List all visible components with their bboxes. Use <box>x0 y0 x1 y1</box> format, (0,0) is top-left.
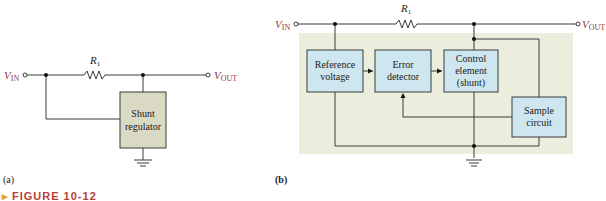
sample-circuit-line2: circuit <box>526 117 552 128</box>
sample-circuit-line1: Sample <box>524 105 555 116</box>
panel-b-label: (b) <box>275 174 287 186</box>
panel-a <box>25 71 208 166</box>
reference-voltage-line1: Reference <box>315 59 356 70</box>
junction-dot <box>472 144 476 148</box>
svg-text:VOUT: VOUT <box>582 18 605 32</box>
junction-dot <box>333 22 337 26</box>
reference-voltage-line2: voltage <box>320 71 350 82</box>
junction-dot <box>44 73 48 77</box>
vin-subscript-a: IN <box>11 74 20 83</box>
error-detector-line2: detector <box>387 71 420 82</box>
vout-subscript-b: OUT <box>589 23 606 32</box>
schematic-canvas: VIN VOUT R1 Shunt regulator (a) VIN VOUT… <box>0 0 606 201</box>
resistor-r1-b <box>396 20 417 28</box>
r1-subscript-b: 1 <box>408 8 412 16</box>
shunt-regulator-block <box>120 92 166 148</box>
resistor-r1-a <box>84 71 105 79</box>
vout-terminal-b <box>576 22 580 26</box>
shunt-regulator-line2: regulator <box>125 121 162 132</box>
svg-text:VOUT: VOUT <box>214 69 237 83</box>
vin-terminal-b <box>294 22 298 26</box>
vin-subscript-b: IN <box>282 23 291 32</box>
svg-text:R1: R1 <box>400 2 412 16</box>
error-detector-line1: Error <box>392 59 414 70</box>
vout-terminal-a <box>206 73 210 77</box>
control-element-line1: Control <box>456 53 487 64</box>
figure-caption: ▸FIGURE 10-12 <box>2 190 97 201</box>
junction-dot <box>472 37 476 41</box>
caption-marker-icon: ▸ <box>2 190 9 201</box>
control-element-line2: element <box>455 65 487 76</box>
junction-dot <box>472 22 476 26</box>
control-element-line3: (shunt) <box>457 77 485 89</box>
svg-text:VIN: VIN <box>275 18 290 32</box>
vin-terminal-a <box>23 73 27 77</box>
panel-a-label: (a) <box>3 174 14 186</box>
shunt-regulator-line1: Shunt <box>131 108 155 119</box>
svg-text:R1: R1 <box>89 54 101 68</box>
figure-caption-text: FIGURE 10-12 <box>12 190 97 201</box>
r1-subscript-a: 1 <box>97 60 101 68</box>
svg-text:VIN: VIN <box>4 69 19 83</box>
junction-dot <box>141 73 145 77</box>
vout-subscript-a: OUT <box>221 74 238 83</box>
